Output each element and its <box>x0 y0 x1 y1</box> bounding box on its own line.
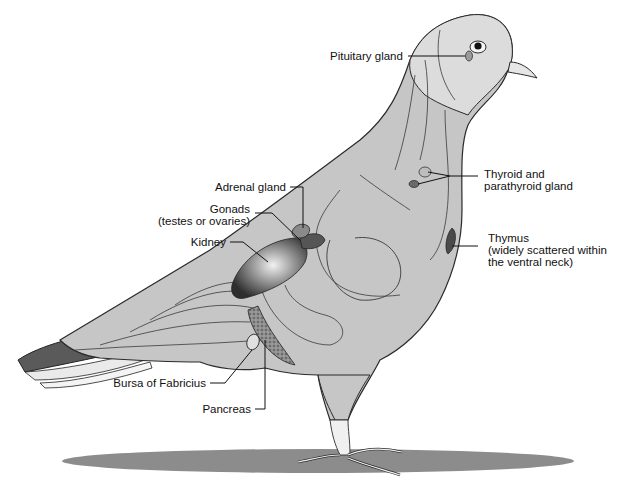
label-thymus: Thymus (widely scattered within the vent… <box>488 232 607 268</box>
diagram-canvas: Pituitary gland Thyroid and parathyroid … <box>0 0 623 493</box>
label-kidney: Kidney <box>170 236 226 248</box>
beak <box>508 62 537 78</box>
label-adrenal-gland: Adrenal gland <box>210 181 286 193</box>
ground-shadow <box>62 449 574 473</box>
pituitary-organ <box>466 51 473 61</box>
label-pancreas: Pancreas <box>190 403 251 415</box>
label-bursa-of-fabricius: Bursa of Fabricius <box>90 377 206 389</box>
label-gonads: Gonads (testes or ovaries) <box>150 203 250 227</box>
label-thyroid-parathyroid: Thyroid and parathyroid gland <box>484 168 573 192</box>
eye <box>470 41 486 53</box>
label-pituitary-gland: Pituitary gland <box>330 50 403 62</box>
